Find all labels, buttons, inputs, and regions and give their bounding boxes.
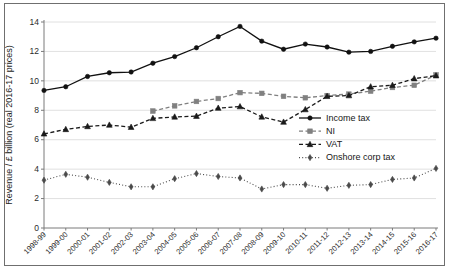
x-tick-label: 1999-00 — [44, 230, 70, 256]
data-point-marker — [64, 171, 68, 177]
data-point-marker — [173, 176, 177, 182]
y-tick-label: 12 — [30, 46, 40, 56]
data-point-marker — [303, 95, 308, 100]
data-point-marker — [195, 170, 199, 176]
data-point-marker — [434, 165, 438, 171]
data-point-marker — [411, 76, 417, 81]
x-tick-label: 2002-03 — [109, 230, 135, 256]
y-axis-title: Revenue / £ billion (real 2016-17 prices… — [4, 45, 14, 205]
data-series-group — [41, 24, 439, 192]
data-point-marker — [259, 91, 264, 96]
legend-item-onshore-corp-tax[interactable]: Onshore corp tax — [299, 152, 396, 162]
x-tick-label: 2003-04 — [131, 230, 157, 256]
y-tick-label: 8 — [34, 105, 39, 115]
x-tick-label: 2016-17 — [414, 230, 440, 256]
line-chart-plot: 02468101214 1998-991999-002000-012001-02… — [0, 0, 449, 276]
data-point-marker — [302, 106, 308, 111]
data-point-marker — [308, 154, 312, 160]
series-ni — [151, 73, 439, 114]
legend-item-ni[interactable]: NI — [299, 126, 335, 136]
x-tick-label: 2001-02 — [87, 230, 113, 256]
y-tick-label: 6 — [34, 134, 39, 144]
x-tick-label: 2000-01 — [65, 230, 91, 256]
data-point-marker — [260, 39, 264, 43]
data-point-marker — [303, 42, 307, 46]
chart-legend: Income taxNIVATOnshore corp tax — [299, 113, 396, 163]
x-tick-label: 2008-09 — [240, 230, 266, 256]
data-point-marker — [281, 47, 285, 51]
data-point-marker — [216, 35, 220, 39]
data-point-marker — [238, 90, 243, 95]
y-axis-tick-labels: 02468101214 — [30, 17, 44, 233]
data-point-marker — [325, 45, 329, 49]
data-point-marker — [42, 177, 46, 183]
data-point-marker — [151, 109, 156, 114]
data-point-marker — [129, 70, 133, 74]
data-point-marker — [172, 104, 177, 109]
data-point-marker — [85, 74, 89, 78]
y-tick-label: 0 — [34, 223, 39, 233]
x-tick-label: 2009-10 — [261, 230, 287, 256]
x-tick-label: 2015-16 — [392, 230, 418, 256]
chart-figure: 02468101214 1998-991999-002000-012001-02… — [0, 0, 449, 276]
data-point-marker — [107, 71, 111, 75]
data-point-marker — [42, 88, 46, 92]
series-income-tax — [42, 24, 438, 92]
x-tick-label: 2006-07 — [196, 230, 222, 256]
x-tick-label: 1998-99 — [22, 230, 48, 256]
y-tick-label: 2 — [34, 193, 39, 203]
x-tick-label: 2013-14 — [349, 230, 375, 256]
data-point-marker — [260, 186, 264, 192]
data-point-marker — [347, 50, 351, 54]
data-point-marker — [107, 179, 111, 185]
y-tick-label: 4 — [34, 164, 39, 174]
data-point-marker — [216, 96, 221, 101]
data-point-marker — [129, 184, 133, 190]
data-point-marker — [172, 54, 176, 58]
legend-label: Income tax — [326, 113, 371, 123]
legend-label: VAT — [326, 139, 343, 149]
legend-label: Onshore corp tax — [326, 152, 396, 162]
data-point-marker — [194, 46, 198, 50]
data-point-marker — [238, 175, 242, 181]
data-point-marker — [86, 174, 90, 180]
data-point-marker — [151, 61, 155, 65]
legend-label: NI — [326, 126, 335, 136]
data-point-marker — [151, 184, 155, 190]
data-point-marker — [215, 105, 221, 110]
data-point-marker — [238, 24, 242, 28]
data-point-marker — [369, 181, 373, 187]
data-point-marker — [412, 83, 417, 88]
data-point-marker — [194, 99, 199, 104]
data-point-marker — [412, 175, 416, 181]
data-point-marker — [368, 49, 372, 53]
data-point-marker — [368, 89, 373, 94]
data-point-marker — [434, 36, 438, 40]
data-point-marker — [63, 126, 69, 131]
data-point-marker — [282, 181, 286, 187]
x-tick-label: 2011-12 — [305, 230, 331, 256]
grid-lines — [44, 22, 436, 199]
y-axis-label: Revenue / £ billion (real 2016-17 prices… — [4, 45, 14, 205]
x-tick-label: 2004-05 — [153, 230, 179, 256]
legend-item-income-tax[interactable]: Income tax — [299, 113, 371, 123]
data-point-marker — [391, 176, 395, 182]
y-tick-label: 10 — [30, 76, 40, 86]
legend-item-vat[interactable]: VAT — [299, 139, 343, 149]
y-tick-label: 14 — [30, 17, 40, 27]
x-tick-label: 2014-15 — [370, 230, 396, 256]
x-tick-label: 2007-08 — [218, 230, 244, 256]
series-line — [153, 75, 436, 111]
data-point-marker — [308, 129, 313, 134]
data-point-marker — [390, 44, 394, 48]
data-point-marker — [216, 173, 220, 179]
x-tick-label: 2005-06 — [174, 230, 200, 256]
data-point-marker — [303, 181, 307, 187]
data-point-marker — [412, 40, 416, 44]
x-tick-label: 2010-11 — [284, 230, 310, 256]
x-tick-label: 2012-13 — [327, 230, 353, 256]
data-point-marker — [347, 182, 351, 188]
data-point-marker — [64, 85, 68, 89]
x-axis-tick-labels: 1998-991999-002000-012001-022002-032003-… — [22, 228, 440, 256]
data-point-marker — [368, 84, 374, 89]
